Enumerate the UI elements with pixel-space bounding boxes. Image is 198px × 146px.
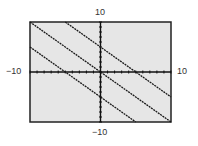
x-max-label: 10 [177, 66, 187, 76]
y-max-label: 10 [95, 7, 105, 17]
y-min-label: −10 [92, 127, 107, 137]
x-min-label: −10 [6, 66, 21, 76]
graph-screen [0, 0, 198, 146]
